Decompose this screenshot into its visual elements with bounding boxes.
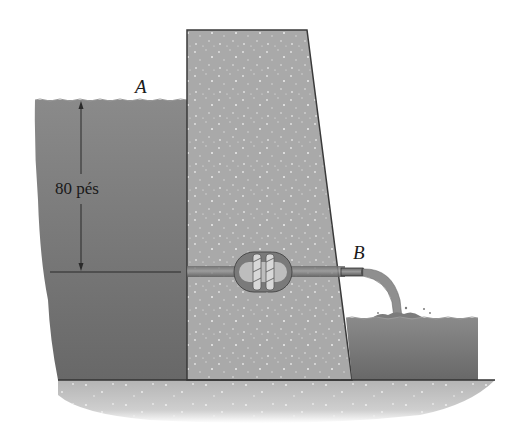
dam	[187, 30, 352, 380]
dam-turbine-diagram: 80 pés A B	[0, 0, 526, 443]
turbine	[234, 252, 292, 292]
point-b-label: B	[353, 242, 365, 263]
water-jet	[363, 269, 402, 318]
ground	[58, 380, 495, 423]
point-a-label: A	[133, 76, 147, 97]
upper-reservoir	[35, 99, 187, 380]
outlet-pipe	[341, 268, 365, 276]
height-label: 80 pés	[55, 179, 99, 198]
tailwater-reservoir	[346, 307, 478, 380]
